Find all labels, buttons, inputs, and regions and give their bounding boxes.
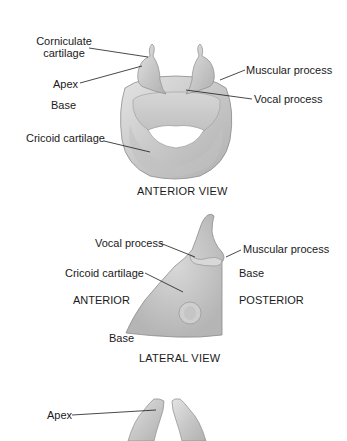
label-corniculate-cartilage: Corniculate cartilage [36,35,92,59]
label-cricoid-cartilage-lateral: Cricoid cartilage [65,267,144,279]
label-base-anterior: Base [51,99,76,111]
label-cricoid-cartilage-anterior: Cricoid cartilage [26,132,105,144]
label-base-lateral-bottom: Base [109,332,134,344]
label-apex-posterior: Apex [47,409,72,421]
caption-anterior-view: ANTERIOR VIEW [137,185,228,197]
label-corniculate-line1: Corniculate [36,35,92,47]
label-apex-anterior: Apex [53,78,78,90]
anterior-view-drawing [121,44,232,179]
label-vocal-process-anterior: Vocal process [254,93,322,105]
label-muscular-process-lateral: Muscular process [243,243,329,255]
label-posterior-direction: POSTERIOR [239,294,304,306]
label-corniculate-line2: cartilage [36,47,92,59]
label-anterior-direction: ANTERIOR [73,294,130,306]
label-vocal-process-lateral: Vocal process [95,237,163,249]
label-muscular-process-anterior: Muscular process [246,64,332,76]
label-base-lateral-right: Base [239,267,264,279]
caption-lateral-view: LATERAL VIEW [139,352,220,364]
posterior-partial-drawing [128,399,206,441]
